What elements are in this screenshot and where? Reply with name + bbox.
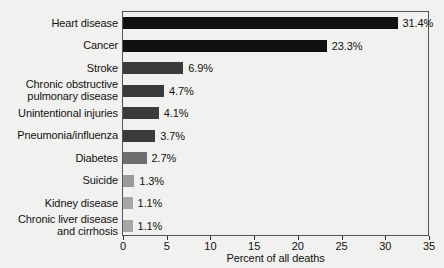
bar-row: Heart disease31.4% bbox=[0, 12, 444, 35]
category-label: Diabetes bbox=[6, 147, 118, 170]
bar-container: 3.7% bbox=[123, 125, 444, 148]
bar-row: Diabetes2.7% bbox=[0, 147, 444, 170]
category-label: Cancer bbox=[6, 35, 118, 58]
category-label: Unintentional injuries bbox=[6, 102, 118, 125]
bar bbox=[123, 220, 133, 232]
bar-value-label: 31.4% bbox=[403, 17, 434, 29]
bar-container: 1.1% bbox=[123, 215, 444, 238]
bar-container: 2.7% bbox=[123, 147, 444, 170]
bar bbox=[123, 17, 398, 29]
bar-container: 4.7% bbox=[123, 80, 444, 103]
category-label: Kidney disease bbox=[6, 192, 118, 215]
bar-value-label: 1.1% bbox=[138, 220, 163, 232]
x-axis-title: Percent of all deaths bbox=[122, 252, 429, 264]
x-tick-label: 10 bbox=[204, 240, 216, 252]
category-label: Chronic liver disease and cirrhosis bbox=[6, 215, 118, 238]
bar-row: Chronic liver disease and cirrhosis1.1% bbox=[0, 215, 444, 238]
x-tick-label: 25 bbox=[335, 240, 347, 252]
category-label: Suicide bbox=[6, 170, 118, 193]
bar-value-label: 23.3% bbox=[332, 40, 363, 52]
category-label: Stroke bbox=[6, 57, 118, 80]
bar-value-label: 1.3% bbox=[139, 175, 164, 187]
bar-chart: Heart disease31.4%Cancer23.3%Stroke6.9%C… bbox=[0, 0, 444, 268]
bar-row: Pneumonia/influenza3.7% bbox=[0, 125, 444, 148]
bar-row: Suicide1.3% bbox=[0, 170, 444, 193]
bar bbox=[123, 197, 133, 209]
bar bbox=[123, 85, 164, 97]
bar-container: 6.9% bbox=[123, 57, 444, 80]
bar bbox=[123, 152, 147, 164]
x-tick-label: 15 bbox=[248, 240, 260, 252]
category-label: Chronic obstructive pulmonary disease bbox=[6, 80, 118, 103]
bar-row: Chronic obstructive pulmonary disease4.7… bbox=[0, 80, 444, 103]
bar bbox=[123, 40, 327, 52]
bar-container: 1.1% bbox=[123, 192, 444, 215]
bar-value-label: 6.9% bbox=[188, 62, 213, 74]
bar-container: 31.4% bbox=[123, 12, 444, 35]
bar bbox=[123, 130, 155, 142]
bar bbox=[123, 62, 183, 74]
bar-row: Kidney disease1.1% bbox=[0, 192, 444, 215]
bar bbox=[123, 107, 159, 119]
bar-container: 23.3% bbox=[123, 35, 444, 58]
category-label: Heart disease bbox=[6, 12, 118, 35]
bar-container: 4.1% bbox=[123, 102, 444, 125]
x-axis: 05101520253035 bbox=[122, 236, 429, 252]
bar bbox=[123, 175, 134, 187]
bar-value-label: 4.7% bbox=[169, 85, 194, 97]
bar-value-label: 2.7% bbox=[152, 152, 177, 164]
bar-row: Stroke6.9% bbox=[0, 57, 444, 80]
bar-value-label: 4.1% bbox=[164, 107, 189, 119]
x-tick-label: 35 bbox=[423, 240, 435, 252]
x-tick-label: 5 bbox=[164, 240, 170, 252]
bar-row: Unintentional injuries4.1% bbox=[0, 102, 444, 125]
x-tick-label: 30 bbox=[379, 240, 391, 252]
bar-row: Cancer23.3% bbox=[0, 35, 444, 58]
x-tick-label: 20 bbox=[292, 240, 304, 252]
x-tick-label: 0 bbox=[120, 240, 126, 252]
bar-value-label: 1.1% bbox=[138, 197, 163, 209]
bar-container: 1.3% bbox=[123, 170, 444, 193]
category-label: Pneumonia/influenza bbox=[6, 125, 118, 148]
bar-value-label: 3.7% bbox=[160, 130, 185, 142]
